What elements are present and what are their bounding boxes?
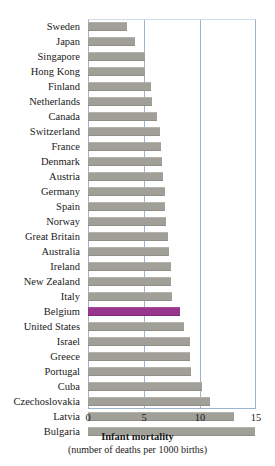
bar (88, 142, 161, 151)
bar-row (88, 244, 256, 259)
bar-row (88, 229, 256, 244)
category-label: Hong Kong (0, 64, 84, 79)
category-label: Greece (0, 349, 84, 364)
category-label: Czechoslovakia (0, 394, 84, 409)
bar (88, 157, 162, 166)
category-label: Spain (0, 199, 84, 214)
bar-row (88, 79, 256, 94)
category-axis-labels: SwedenJapanSingaporeHong KongFinlandNeth… (0, 19, 84, 409)
category-label: Netherlands (0, 94, 84, 109)
value-axis-ticks: 051015 (0, 411, 275, 425)
bar-row (88, 214, 256, 229)
bar-row (88, 334, 256, 349)
chart-title: Infant mortality (0, 430, 275, 443)
category-label: Cuba (0, 379, 84, 394)
bar-row (88, 289, 256, 304)
bar (88, 262, 171, 271)
bar-row (88, 64, 256, 79)
category-label: Finland (0, 79, 84, 94)
bar-rows (88, 19, 256, 409)
bar-row (88, 34, 256, 49)
bar (88, 397, 210, 406)
category-label: Israel (0, 334, 84, 349)
bar (88, 217, 166, 226)
bar-row (88, 139, 256, 154)
bar-row (88, 394, 256, 409)
bar-row (88, 199, 256, 214)
bar (88, 187, 165, 196)
bar (88, 292, 172, 301)
bar (88, 202, 165, 211)
category-label: Germany (0, 184, 84, 199)
bar-row (88, 109, 256, 124)
category-label: Australia (0, 244, 84, 259)
bar (88, 82, 151, 91)
bar (88, 337, 190, 346)
bar (88, 67, 145, 76)
bar-row (88, 319, 256, 334)
x-tick-label: 10 (195, 411, 206, 425)
bar-highlight (88, 307, 180, 316)
bar-row (88, 94, 256, 109)
chart-subtitle: (number of deaths per 1000 births) (0, 443, 275, 456)
bar (88, 127, 160, 136)
bar-row (88, 184, 256, 199)
bar (88, 172, 163, 181)
bar (88, 232, 168, 241)
bar-row (88, 379, 256, 394)
bar-row (88, 364, 256, 379)
bar-row (88, 154, 256, 169)
bar (88, 247, 169, 256)
category-label: Sweden (0, 19, 84, 34)
category-label: Great Britain (0, 229, 84, 244)
x-tick-label: 0 (85, 411, 90, 425)
x-tick-label: 15 (251, 411, 262, 425)
bar-row (88, 304, 256, 319)
bar-row (88, 124, 256, 139)
category-label: United States (0, 319, 84, 334)
bar-row (88, 19, 256, 34)
category-label: France (0, 139, 84, 154)
category-label: Denmark (0, 154, 84, 169)
category-label: Italy (0, 289, 84, 304)
infant-mortality-bar-chart: SwedenJapanSingaporeHong KongFinlandNeth… (0, 0, 275, 466)
bar-row (88, 274, 256, 289)
bar-row (88, 49, 256, 64)
bar (88, 352, 190, 361)
bar-row (88, 259, 256, 274)
category-label: Norway (0, 214, 84, 229)
category-label: Ireland (0, 259, 84, 274)
bar (88, 52, 145, 61)
category-label: Canada (0, 109, 84, 124)
bar (88, 97, 152, 106)
bar (88, 322, 184, 331)
category-label: Portugal (0, 364, 84, 379)
bar (88, 382, 202, 391)
category-label: Austria (0, 169, 84, 184)
bar-row (88, 169, 256, 184)
category-label: Switzerland (0, 124, 84, 139)
bar (88, 22, 127, 31)
bar (88, 37, 135, 46)
category-label: Singapore (0, 49, 84, 64)
bar (88, 112, 157, 121)
bar-row (88, 349, 256, 364)
bar (88, 367, 191, 376)
bar (88, 277, 171, 286)
category-label: Japan (0, 34, 84, 49)
x-tick-label: 5 (141, 411, 146, 425)
category-label: Belgium (0, 304, 84, 319)
category-label: New Zealand (0, 274, 84, 289)
